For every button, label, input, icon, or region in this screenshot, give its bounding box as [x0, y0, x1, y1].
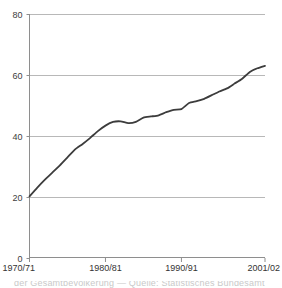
x-axis-tick-label: 1970/71: [3, 263, 36, 273]
y-axis-tick-label: 20: [12, 193, 22, 203]
y-axis-tick-label: 80: [12, 10, 22, 20]
x-axis-tick-label: 1980/81: [89, 263, 122, 273]
line-chart: 020406080 1970/711980/811990/912001/02: [0, 0, 282, 288]
chart-background: [0, 0, 282, 288]
x-axis-tick-label: 1990/91: [165, 263, 198, 273]
y-axis-tick-label: 40: [12, 132, 22, 142]
y-axis-tick-label: 0: [17, 254, 22, 264]
x-axis-tick-label: 2001/02: [247, 263, 280, 273]
clipped-caption: der Gesamtbevölkerung — Quelle: Statisti…: [0, 281, 282, 288]
caption-text: der Gesamtbevölkerung — Quelle: Statisti…: [14, 281, 282, 288]
y-axis-tick-label: 60: [12, 71, 22, 81]
chart-container: 020406080 1970/711980/811990/912001/02 d…: [0, 0, 282, 288]
